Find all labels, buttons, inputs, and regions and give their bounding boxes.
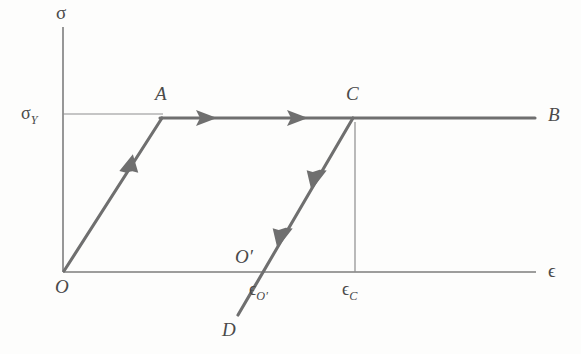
epsilon-o-prime-tick-label: ϵO′ [249, 280, 268, 302]
elastic-loading-curve [64, 118, 162, 271]
point-label-D: D [222, 320, 236, 339]
epsilon-axis-label: ϵ [548, 261, 556, 280]
point-label-C: C [346, 84, 359, 103]
sigma-yield-tick-label: σY [21, 104, 38, 126]
point-label-B: B [548, 105, 560, 124]
unloading-arrowhead-1-icon [307, 170, 328, 191]
sigma-yield-subscript: Y [31, 113, 38, 127]
epsilon-c-tick-label: ϵC [342, 280, 357, 302]
sigma-axis-label: σ [56, 3, 66, 22]
point-label-O: O [55, 277, 69, 296]
epsilon-o-prime-subscript: O′ [256, 289, 268, 303]
point-label-O-prime: O′ [235, 247, 253, 266]
sigma-yield-symbol: σ [21, 103, 31, 123]
stress-strain-plot [0, 0, 581, 354]
unloading-arrowhead-2-icon [273, 228, 294, 249]
stress-strain-figure: σ ϵ σY O A C B O′ D ϵO′ ϵC [0, 0, 581, 354]
point-label-A: A [155, 84, 167, 103]
epsilon-c-subscript: C [349, 289, 357, 303]
